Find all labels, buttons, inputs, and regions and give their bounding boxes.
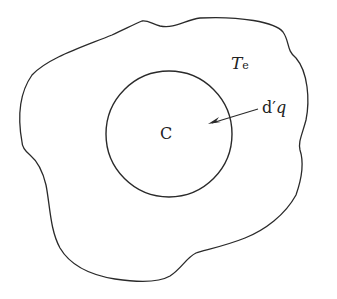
heat-flow-differential: d′ (262, 98, 276, 117)
temperature-subscript: e (242, 59, 249, 72)
heat-flow-arrow-shaft (212, 109, 258, 123)
surroundings-temperature-label: Te (231, 55, 249, 72)
system-label: C (160, 126, 172, 142)
temperature-symbol: T (231, 53, 242, 73)
surroundings-boundary (20, 18, 308, 282)
heat-flow-symbol: q (276, 98, 286, 117)
heat-flow-label: d′q (262, 100, 286, 116)
diagram-canvas (0, 0, 337, 299)
